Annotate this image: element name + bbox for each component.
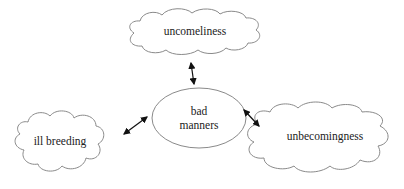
arrow-center-top (191, 63, 194, 84)
label-bad: bad (169, 105, 229, 118)
label-ill-breeding: ill breeding (20, 135, 100, 148)
center-ellipse (152, 88, 246, 148)
label-uncomeliness: uncomeliness (150, 25, 240, 38)
label-unbecomingness: unbecomingness (270, 130, 380, 143)
arrow-center-left (124, 117, 147, 134)
label-manners: manners (169, 119, 229, 132)
